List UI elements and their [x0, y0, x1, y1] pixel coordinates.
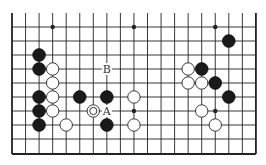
- white-stone-icon: [182, 63, 194, 75]
- star-point-icon: [132, 25, 136, 29]
- black-stone-icon: [195, 63, 208, 76]
- black-stone-icon: [100, 91, 113, 104]
- black-stone-icon: [33, 91, 46, 104]
- point-label-a: A: [102, 105, 112, 118]
- star-point-icon: [213, 25, 217, 29]
- white-stone-icon: [46, 63, 58, 75]
- white-stone-icon: [128, 119, 140, 131]
- black-stone-icon: [222, 91, 235, 104]
- white-stone-icon: [60, 119, 72, 131]
- white-stone-icon: [209, 119, 221, 131]
- white-stone-icon: [46, 91, 58, 103]
- black-stone-icon: [33, 49, 46, 62]
- black-stone-icon: [100, 119, 113, 132]
- white-stone-icon: [46, 105, 58, 117]
- marked-white-stone-icon: [87, 105, 99, 117]
- black-stone-icon: [73, 91, 86, 104]
- point-label-b: B: [103, 63, 111, 76]
- black-stone-icon: [209, 77, 222, 90]
- white-stone-icon: [128, 91, 140, 103]
- go-board-diagram: BA: [0, 0, 266, 165]
- white-stone-icon: [46, 77, 58, 89]
- white-stone-icon: [182, 77, 194, 89]
- black-stone-icon: [33, 63, 46, 76]
- white-stone-icon: [196, 105, 208, 117]
- black-stone-icon: [33, 119, 46, 132]
- star-point-icon: [50, 25, 54, 29]
- black-stone-icon: [33, 105, 46, 118]
- star-point-icon: [213, 109, 217, 113]
- star-point-icon: [132, 109, 136, 113]
- black-stone-icon: [222, 35, 235, 48]
- white-stone-icon: [196, 77, 208, 89]
